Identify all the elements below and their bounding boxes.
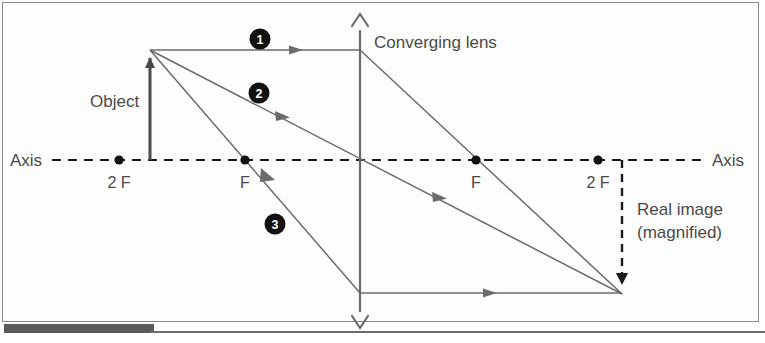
focal-dot-2f-right <box>593 155 602 164</box>
focal-label-2f-left: 2 F <box>107 174 130 191</box>
figure-canvas: 1 2 3 Converging lens Object Axis Axis 2… <box>0 0 765 343</box>
converging-lens-label: Converging lens <box>374 33 497 52</box>
focal-label-f-right: F <box>471 174 481 191</box>
focal-label-f-left: F <box>240 174 250 191</box>
ray-1-badge-label: 1 <box>257 33 264 47</box>
focal-dot-f-left <box>240 155 249 164</box>
ray-2-badge-label: 2 <box>256 87 263 101</box>
real-image-label-line2: (magnified) <box>637 223 722 242</box>
axis-label-right: Axis <box>712 151 744 170</box>
focal-dot-f-right <box>471 155 480 164</box>
ray-2-path <box>150 50 622 294</box>
ray-3-refracted-arrowhead <box>483 289 497 298</box>
ray-2-incident-arrowhead <box>275 111 290 121</box>
ray-marker-3: 3 <box>265 214 286 235</box>
lens-top-arrowhead <box>352 14 368 26</box>
lens-bottom-arrowhead <box>352 316 368 328</box>
object-label: Object <box>90 92 139 111</box>
ray-1-refracted <box>360 50 622 294</box>
ray-1-incident-arrowhead <box>289 46 303 55</box>
axis-label-left: Axis <box>10 151 42 170</box>
ray-3-incident-arrowhead <box>260 168 275 182</box>
ray-3-badge-label: 3 <box>272 218 279 232</box>
focal-label-2f-right: 2 F <box>586 174 609 191</box>
focal-dot-2f-left <box>114 155 123 164</box>
real-image-label-line1: Real image <box>637 200 723 219</box>
ray-marker-1: 1 <box>250 29 271 50</box>
converging-lens <box>352 14 368 328</box>
optics-ray-diagram: 1 2 3 Converging lens Object Axis Axis 2… <box>0 0 765 343</box>
ray-2-line <box>150 50 622 294</box>
ray-marker-2: 2 <box>249 83 270 104</box>
